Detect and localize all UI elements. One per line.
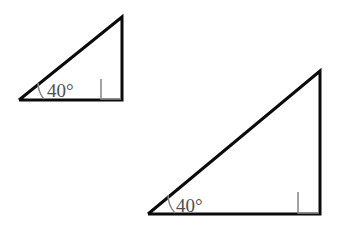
- large-triangle-angle-label: 40°: [176, 195, 203, 216]
- small-triangle-angle-label: 40°: [47, 80, 74, 101]
- figure-canvas: 40° 40°: [0, 0, 337, 225]
- small-triangle-right-angle-icon: [101, 79, 121, 99]
- large-triangle-right-angle-icon: [298, 192, 319, 213]
- small-triangle: 40°: [19, 17, 122, 101]
- large-triangle-outline: [148, 71, 320, 214]
- large-triangle: 40°: [148, 71, 320, 216]
- geometry-figure: 40° 40°: [0, 0, 337, 225]
